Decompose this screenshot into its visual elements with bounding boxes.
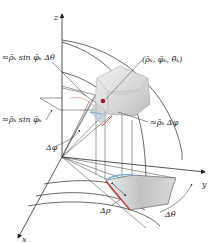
delta-rho-label: Δρ	[99, 206, 111, 215]
x-axis-label: x	[22, 235, 27, 243]
sample-point	[101, 99, 106, 104]
x-axis	[18, 157, 62, 238]
spherical-wedge-diagram: z y x ≈ρ̄ₖ sin φ̄ₖ Δθ (ρ̄ₖ, φ̄ₖ, θ̄ₖ) ≈ρ…	[0, 0, 214, 243]
delta-theta-label: Δθ	[164, 210, 176, 219]
volume-wedge	[90, 66, 150, 126]
arc-theta-label: ≈ρ̄ₖ sin φ̄ₖ Δθ	[2, 53, 55, 62]
point-label: (ρ̄ₖ, φ̄ₖ, θ̄ₖ)	[142, 55, 182, 64]
y-axis-label: y	[201, 180, 207, 189]
delta-phi-label: Δφ	[45, 143, 58, 152]
labels: z y x ≈ρ̄ₖ sin φ̄ₖ Δθ (ρ̄ₖ, φ̄ₖ, θ̄ₖ) ≈ρ…	[2, 13, 207, 243]
z-axis-label: z	[53, 13, 59, 22]
base-shaded-region	[106, 175, 176, 210]
arc-phi-label: ≈ρ̄ₖ Δφ	[150, 118, 179, 127]
radius-sin-label: ≈ρ̄ₖ sin φ̄ₖ	[2, 115, 42, 124]
